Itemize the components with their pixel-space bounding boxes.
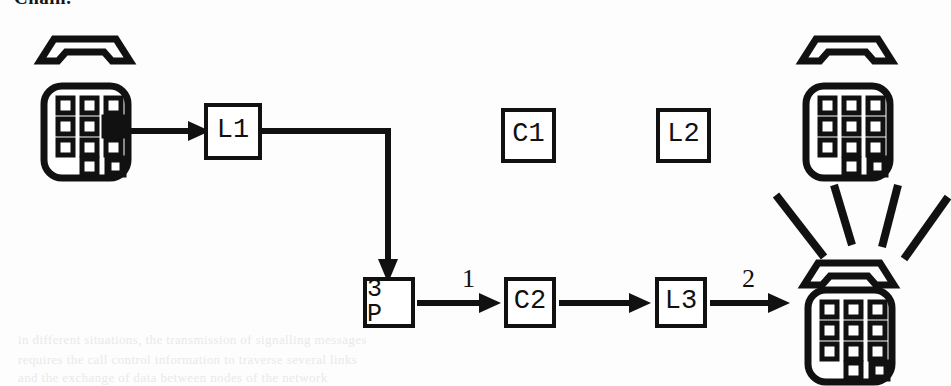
edge-caller-to-L1 — [126, 118, 212, 144]
node-L1[interactable]: L1 — [204, 103, 262, 160]
node-C2[interactable]: C2 — [504, 277, 556, 328]
node-C1-label: C1 — [512, 121, 544, 148]
node-3P-label: 3 P — [367, 277, 411, 327]
edge-L1-to-3P — [262, 125, 402, 290]
edge-label-1: 1 — [462, 266, 475, 292]
scan-ghost-text-line-3: and the exchange of data between nodes o… — [18, 370, 328, 386]
page-title: Chain. — [14, 0, 71, 9]
node-L1-label: L1 — [217, 117, 249, 144]
scan-ghost-text-line-1: in different situations, the transmissio… — [18, 332, 367, 348]
node-C1[interactable]: C1 — [501, 108, 556, 163]
node-L2[interactable]: L2 — [656, 108, 711, 163]
edge-3P-to-C2 — [417, 290, 503, 316]
scan-ghost-text-line-2: requires the call control information to… — [18, 352, 357, 368]
edge-C2-to-L3 — [559, 290, 653, 316]
node-L3-label: L3 — [665, 288, 697, 315]
pressed-key — [104, 117, 123, 136]
diagram-canvas: Chain. in different situations, the tran… — [0, 0, 951, 386]
ringing-lines-icon — [776, 185, 948, 259]
node-L2-label: L2 — [667, 121, 699, 148]
handset-icon — [804, 263, 894, 285]
telephone-idle-icon — [794, 28, 914, 183]
handset-icon — [40, 39, 130, 61]
telephone-ringing-icon — [752, 185, 951, 386]
node-C2-label: C2 — [514, 288, 546, 315]
telephone-dialing-icon — [32, 28, 152, 183]
node-L3[interactable]: L3 — [655, 277, 707, 328]
handset-icon — [802, 39, 892, 61]
node-3P[interactable]: 3 P — [363, 277, 415, 328]
